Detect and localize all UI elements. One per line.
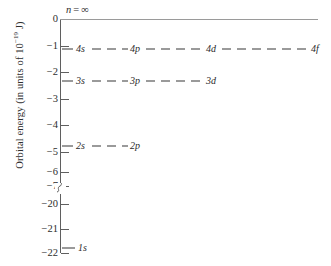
y-tick-label-minus20: −20 xyxy=(32,199,58,209)
y-tick-label-minus6: −6 xyxy=(32,167,58,177)
level-label-4p: 4p xyxy=(130,43,140,54)
level-label-1s: 1s xyxy=(78,242,87,253)
level-line-4d-left xyxy=(146,48,204,50)
level-line-n-infinity xyxy=(60,19,318,21)
level-label-2p: 2p xyxy=(130,140,140,151)
level-row-n4: 4s 4p 4d 4f xyxy=(0,43,331,56)
y-tick-minus4 xyxy=(61,125,69,126)
level-line-4p-left xyxy=(92,48,128,50)
level-label-3p: 3p xyxy=(130,75,140,86)
level-label-3s: 3s xyxy=(76,75,85,86)
y-axis-title-exponent: −19 xyxy=(12,32,20,43)
y-tick-label-minus4: −4 xyxy=(32,120,58,130)
y-tick-minus2 xyxy=(61,72,69,73)
level-row-n1: 1s xyxy=(0,242,331,255)
y-axis-title: Orbital energy (in units of 10−19 J) xyxy=(12,0,30,210)
level-line-3p-left xyxy=(92,80,128,82)
level-row-n3: 3s 3p 3d xyxy=(0,75,331,88)
level-label-4s: 4s xyxy=(76,43,85,54)
level-label-2s: 2s xyxy=(76,140,85,151)
orbital-energy-diagram: Orbital energy (in units of 10−19 J) 0 −… xyxy=(0,0,331,266)
level-label-4d: 4d xyxy=(206,43,216,54)
axis-break-icon xyxy=(55,183,66,194)
y-tick-label-minus3: −3 xyxy=(32,94,58,104)
level-line-2p-left xyxy=(92,145,128,147)
level-line-4s xyxy=(62,48,73,50)
level-line-3s xyxy=(62,80,73,82)
y-tick-minus20 xyxy=(61,204,69,205)
level-label-n-infinity: n=∞ xyxy=(66,4,89,15)
y-tick-minus3 xyxy=(61,99,69,100)
y-tick-label-minus21: −21 xyxy=(32,224,58,234)
level-row-n2: 2s 2p xyxy=(0,140,331,153)
infinity-symbol: ∞ xyxy=(81,4,89,15)
level-line-3d-left xyxy=(146,80,204,82)
level-line-2s xyxy=(62,145,73,147)
y-axis-title-tail: J) xyxy=(14,21,25,32)
y-tick-minus6 xyxy=(61,172,69,173)
y-tick-minus21 xyxy=(61,229,69,230)
equals-symbol: = xyxy=(71,4,81,15)
level-line-4f-left xyxy=(222,48,309,50)
level-line-1s xyxy=(62,247,75,249)
y-tick-label-0: 0 xyxy=(32,14,58,24)
level-label-3d: 3d xyxy=(206,75,216,86)
level-label-4f: 4f xyxy=(311,43,319,54)
